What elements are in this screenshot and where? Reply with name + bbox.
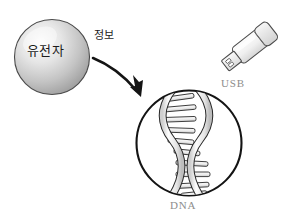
diagram-vector-layer (0, 0, 299, 221)
usb-drive-label: USB (221, 78, 245, 89)
dna-circle-label: DNA (170, 200, 196, 211)
gene-sphere-label: 유전자 (27, 44, 64, 57)
diagram-canvas: 유전자 정보 USB DNA (0, 0, 299, 221)
usb-flash-drive-icon (218, 20, 279, 74)
information-arrow-label: 정보 (94, 30, 115, 41)
dna-circle (137, 86, 242, 199)
information-flow-arrow (93, 58, 143, 97)
